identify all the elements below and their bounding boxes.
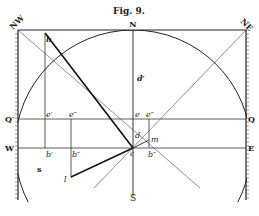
label-nw: NW [7, 12, 26, 31]
label-c: c [130, 150, 134, 158]
label-e-prime: e′ [46, 110, 53, 119]
h-line [45, 33, 133, 148]
label-s: S [130, 193, 136, 203]
label-d-prime: d′ [137, 73, 146, 83]
label-m: m [151, 135, 159, 144]
label-b-prime: b′ [46, 150, 53, 159]
label-h: h [46, 34, 52, 44]
label-s-small: s [37, 164, 42, 174]
label-e-double: e″ [69, 110, 77, 119]
label-b-double: b″ [72, 150, 80, 159]
compass-diagram: Fig. 9. NW N NE h d′ Q′ Q e′ e″ e e″ d [0, 0, 259, 216]
label-l: l [64, 175, 67, 184]
label-d: d [135, 131, 140, 140]
label-b-double-right: b″ [148, 150, 156, 159]
label-e-east: E [248, 143, 254, 153]
ne-diagonal [94, 30, 246, 188]
label-q-right: Q [248, 114, 255, 124]
cm-line [133, 140, 149, 148]
left-scale [15, 30, 18, 200]
figure-title: Fig. 9. [113, 6, 145, 16]
label-w: W [4, 143, 15, 153]
label-e-double-right: e″ [146, 110, 154, 119]
l-line [71, 148, 133, 177]
label-n: N [129, 19, 136, 29]
label-e: e [135, 110, 140, 119]
label-q-left: Q′ [5, 114, 14, 124]
